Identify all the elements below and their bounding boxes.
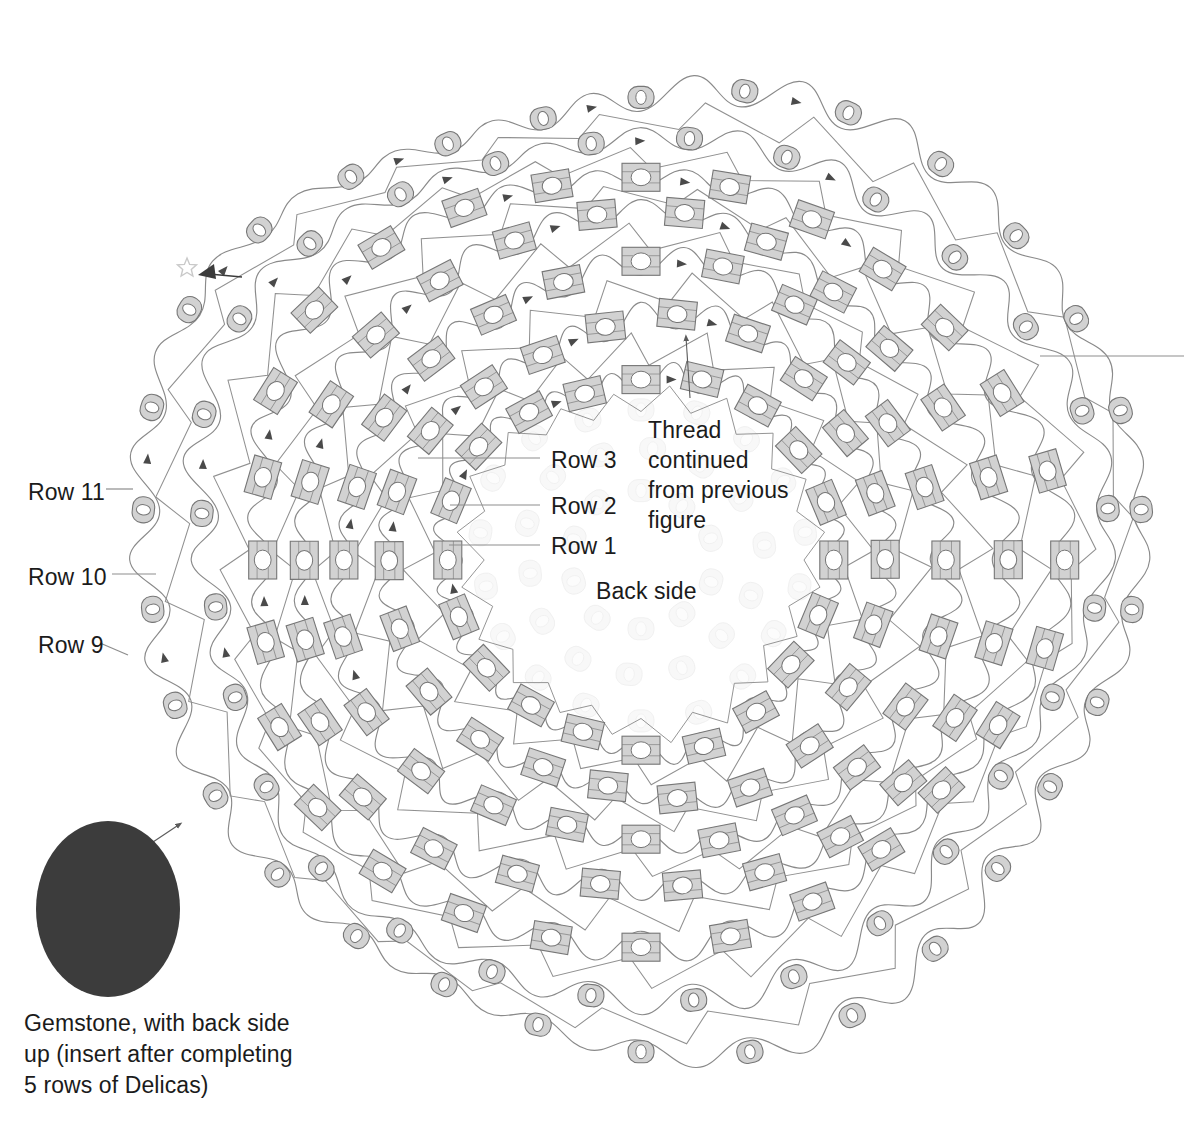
seed-bead [140,595,165,623]
delica-bead [1051,541,1079,579]
ghost-seed-bead [526,604,559,638]
seed-bead [190,398,219,430]
thread-direction-arrowhead [719,222,731,233]
label-row-11: Row 11 [28,478,105,507]
ghost-seed-bead [628,618,654,640]
gemstone-shape [36,821,180,997]
thread-direction-arrowhead [568,335,580,346]
delica-bead [508,684,555,727]
seed-bead [628,86,654,108]
delica-bead [622,163,660,191]
delica-bead [290,541,318,579]
ghost-seed-bead [758,617,790,651]
ghost-seed-bead [615,662,643,686]
seed-bead [1034,770,1066,804]
delica-bead [657,298,698,330]
delica-bead [772,795,818,836]
delica-bead [662,870,702,901]
figure-canvas: Row 11 Row 10 Row 9 Row 3 Row 2 Row 1 Th… [0,0,1184,1134]
delica-bead [726,314,771,353]
delica-bead [833,745,880,790]
delica-bead [933,694,978,741]
delica-bead [743,854,787,891]
thread-direction-arrowhead [677,260,687,269]
thread-direction-arrowhead [316,437,326,449]
seed-bead [735,1038,765,1065]
seed-bead [577,131,605,156]
seed-bead [836,1000,869,1031]
thread-direction-arrowhead [393,155,405,166]
delica-bead [530,921,572,955]
delica-bead [970,455,1008,500]
delica-bead [521,748,566,787]
delica-bead [455,423,501,470]
seed-bead [680,988,708,1013]
thread-direction-arrowhead [825,173,837,185]
delica-bead [330,541,358,579]
seed-bead [304,851,338,885]
thread-direction-arrowhead [451,403,464,416]
label-row-1: Row 1 [551,532,617,561]
seed-bead [1106,395,1135,427]
delica-bead [855,471,895,516]
seed-bead [1060,302,1092,336]
thread-direction-arrowhead [349,668,360,680]
thread-direction-arrowhead [342,272,355,285]
delica-bead [561,714,604,750]
ghost-seed-bead [726,660,760,694]
delica-bead [362,394,407,441]
leader-row9 [100,643,128,655]
seed-bead [339,919,373,952]
delica-bead [531,169,573,203]
label-thread-continued-note: Thread continued from previous figure [648,415,789,535]
ghost-seed-bead [518,559,543,588]
seed-bead [190,499,215,527]
seed-bead [1120,595,1145,623]
ghost-seed-bead [736,580,765,612]
delica-bead [254,367,298,414]
delica-bead [434,541,462,579]
seed-bead [863,907,897,939]
delica-bead [588,770,629,802]
ghost-seed-bead [513,507,542,539]
delica-bead [733,691,780,734]
thread-direction-arrowhead [635,137,645,145]
seed-bead [1083,687,1112,719]
delica-bead [768,641,814,688]
start-star-icon [178,258,197,276]
seed-bead [999,219,1033,253]
delica-bead [823,410,869,457]
delica-bead [932,541,960,579]
delica-bead [817,815,864,857]
thread-direction-arrowhead [389,521,398,532]
delica-bead [1026,626,1064,670]
seed-bead [730,78,760,105]
thread-direction-arrowhead [220,646,230,657]
delica-bead [680,361,723,397]
thread-direction-arrowhead [841,238,854,250]
delica-bead [806,479,846,525]
seed-bead [1010,310,1042,344]
thread-direction-arrowhead [346,518,356,529]
delica-bead [492,222,536,259]
delica-bead [442,188,487,227]
seed-bead [628,1041,654,1063]
ghost-seed-bead [580,601,614,634]
ghost-seed-bead [705,619,739,653]
delica-bead [790,882,835,921]
delica-bead [291,460,329,505]
delica-bead [471,294,517,335]
ghost-seed-bead [752,531,777,560]
ghost-seed-bead [477,461,509,495]
label-row-2: Row 2 [551,492,617,521]
seed-bead [523,1011,553,1038]
thread-direction-arrowhead [401,382,413,395]
delica-bead [417,260,464,302]
delica-bead [994,541,1022,579]
seed-bead [261,857,295,891]
delica-bead [883,683,928,730]
seed-bead [250,770,282,804]
thread-direction-arrowhead [550,222,562,233]
thread-direction-arrowhead [260,596,268,606]
thread-direction-arrowhead [301,595,309,605]
